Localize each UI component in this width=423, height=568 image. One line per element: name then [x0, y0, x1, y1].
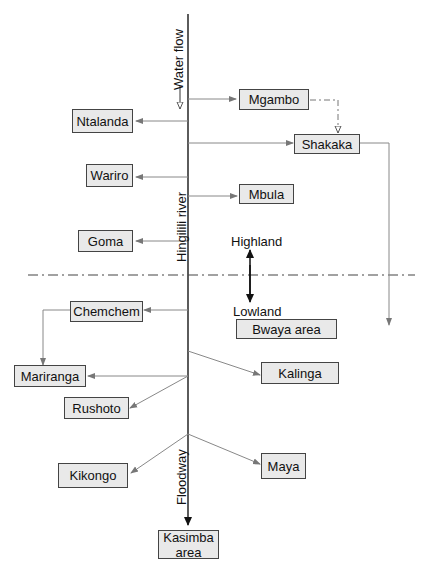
river-name-label: Hingilili river	[174, 192, 189, 262]
node-kasimba-area: Kasimba area	[158, 530, 219, 559]
node-ntalanda: Ntalanda	[72, 109, 133, 133]
node-mbula: Mbula	[239, 184, 294, 204]
node-kalinga: Kalinga	[261, 362, 339, 384]
lowland-label: Lowland	[233, 304, 281, 319]
water-flow-label: Water flow	[171, 29, 186, 90]
node-kikongo: Kikongo	[58, 463, 128, 488]
node-shakaka: Shakaka	[294, 134, 360, 154]
node-bwaya-area: Bwaya area	[236, 319, 337, 339]
node-wariro: Wariro	[86, 164, 133, 187]
node-maya: Maya	[261, 453, 306, 479]
node-chemchem: Chemchem	[70, 301, 143, 322]
node-rushoto: Rushoto	[64, 397, 129, 419]
highland-label: Highland	[231, 234, 282, 249]
node-mariranga: Mariranga	[14, 365, 86, 387]
node-goma: Goma	[78, 230, 133, 252]
floodway-label: Floodway	[174, 449, 189, 505]
node-mgambo: Mgambo	[239, 89, 309, 110]
